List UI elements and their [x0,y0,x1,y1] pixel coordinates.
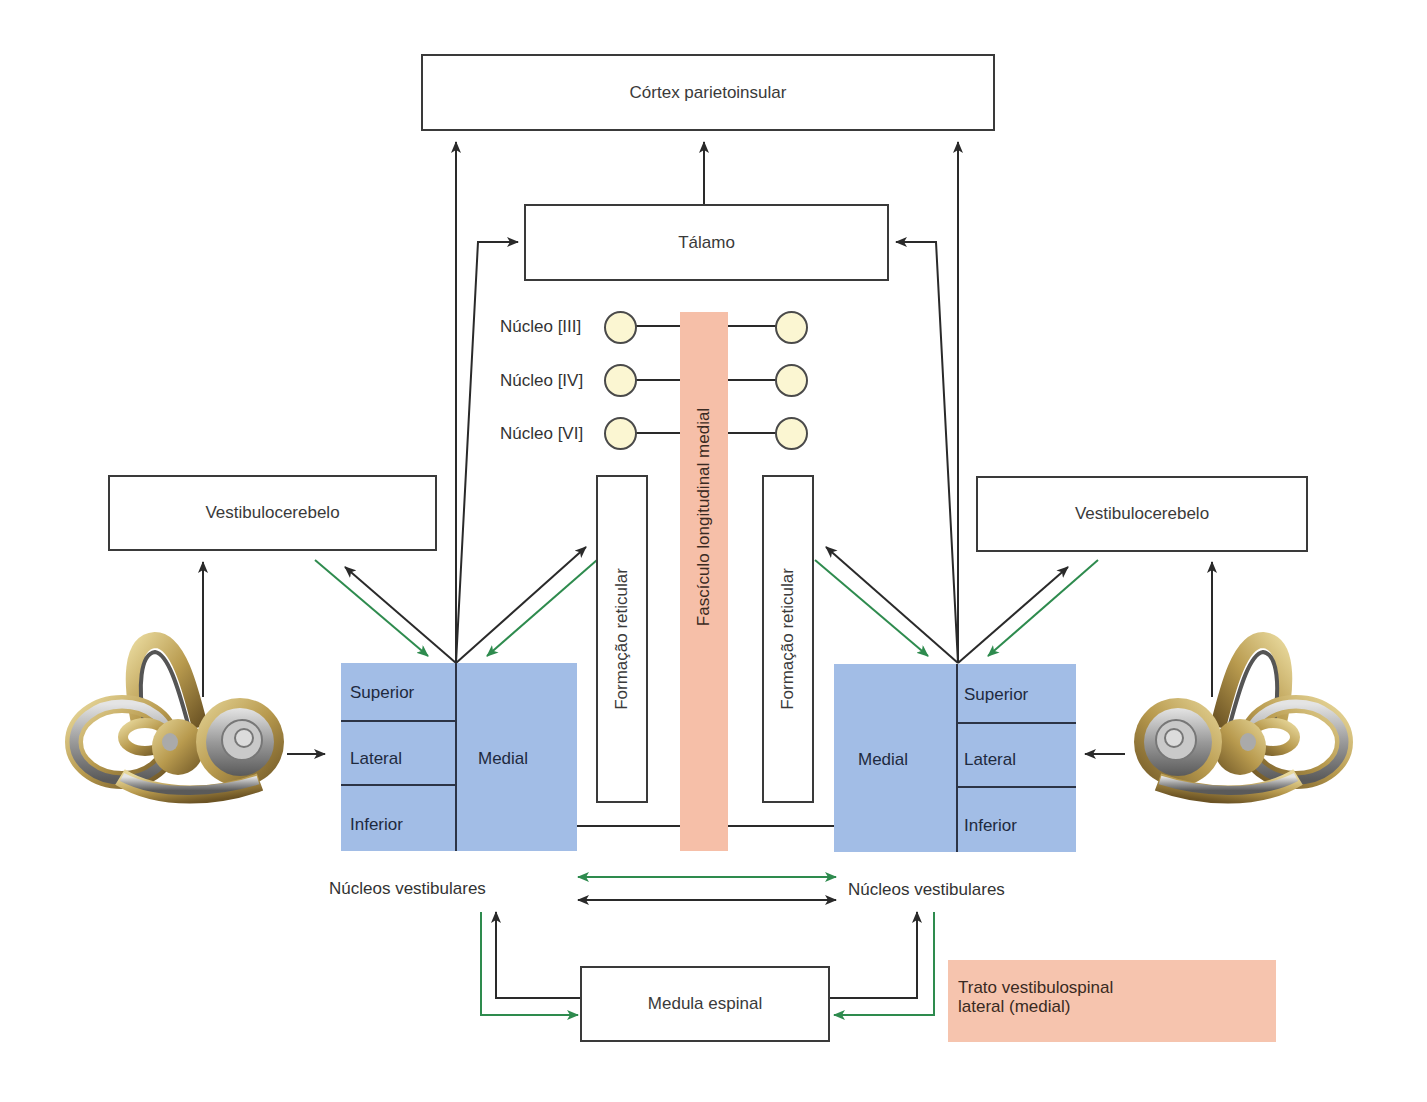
spinal-cord-label: Medula espinal [648,994,762,1014]
legend-line-1: Trato vestibulospinal [958,978,1266,997]
cranial-nucleus-vi-right [775,417,808,450]
cranial-nucleus-iv-right [775,364,808,397]
thalamus-label: Tálamo [678,233,735,253]
lateral-nucleus-right: Lateral [964,750,1016,770]
cranial-nucleus-vi-label: Núcleo [VI] [500,424,583,444]
spinal-cord-box: Medula espinal [580,966,830,1042]
vestibulocerebellum-left-box: Vestibulocerebelo [108,475,437,551]
cortex-box: Córtex parietoinsular [421,54,995,131]
reticular-formation-left: Formação reticular [596,475,648,803]
legend-line-2: lateral (medial) [958,997,1266,1016]
cranial-nucleus-vi-left [604,417,637,450]
cortex-label: Córtex parietoinsular [630,83,787,103]
superior-nucleus-left: Superior [350,683,414,703]
cranial-nucleus-iii-label: Núcleo [III] [500,317,581,337]
superior-nucleus-right: Superior [964,685,1028,705]
cranial-nucleus-iv-left [604,364,637,397]
reticular-formation-left-label: Formação reticular [612,568,632,710]
lateral-nucleus-left: Lateral [350,749,402,769]
vestibular-nuclei-right-caption: Núcleos vestibulares [848,880,1005,900]
inferior-nucleus-left: Inferior [350,815,403,835]
vestibular-nuclei-left-caption: Núcleos vestibulares [329,879,486,899]
reticular-formation-right: Formação reticular [762,475,814,803]
thalamus-box: Tálamo [524,204,889,281]
vestibular-nuclei-left: Superior Lateral Inferior Medial [341,663,577,851]
vestibulocerebellum-right-label: Vestibulocerebelo [1075,504,1209,524]
vestibulocerebellum-right-box: Vestibulocerebelo [976,476,1308,552]
inner-ear-left-icon [60,632,290,812]
vestibulocerebellum-left-label: Vestibulocerebelo [205,503,339,523]
mlf-label: Fascículo longitudinal medial [694,408,714,626]
medial-nucleus-right: Medial [858,750,908,770]
inferior-nucleus-right: Inferior [964,816,1017,836]
medial-longitudinal-fasciculus: Fascículo longitudinal medial [680,312,728,851]
cranial-nucleus-iii-left [604,311,637,344]
medial-nucleus-left: Medial [478,749,528,769]
cranial-nucleus-iii-right [775,311,808,344]
cranial-nucleus-iv-label: Núcleo [IV] [500,371,583,391]
vestibular-nuclei-right: Superior Lateral Inferior Medial [834,664,1076,852]
inner-ear-right-icon [1128,632,1358,812]
reticular-formation-right-label: Formação reticular [778,568,798,710]
vestibulospinal-tract-legend: Trato vestibulospinal lateral (medial) [948,960,1276,1042]
